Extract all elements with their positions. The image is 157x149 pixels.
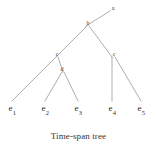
tree-leaf-e2: e2: [41, 104, 48, 116]
leaf-subscript: 2: [46, 109, 49, 116]
tree-node-c-right: c: [113, 51, 116, 57]
tree-node-b: b: [87, 20, 90, 26]
edge-c-right-e5: [115, 57, 141, 101]
tree-edges: [0, 0, 157, 149]
tree-leaf-e3: e3: [74, 104, 81, 116]
tree-leaf-e5: e5: [137, 104, 144, 116]
figure-caption: Time-span tree: [0, 131, 157, 141]
edge-c-left-e1: [12, 57, 56, 101]
edge-b-a: [86, 11, 110, 26]
leaf-subscript: 1: [13, 109, 16, 116]
edge-d-e2: [45, 72, 62, 101]
edge-d-e3: [64, 72, 78, 101]
leaf-subscript: 4: [113, 109, 116, 116]
leaf-subscript: 5: [142, 109, 145, 116]
tree-node-d: d: [61, 66, 64, 72]
edge-b-c-right: [89, 26, 112, 57]
tree-leaf-e1: e1: [8, 104, 15, 116]
tree-node-a: a: [112, 5, 115, 11]
time-span-tree-figure: a b c c d e1 e2 e3 e4 e5 Time-span tree: [0, 0, 157, 149]
tree-node-c-left: c: [56, 51, 59, 57]
tree-leaf-e4: e4: [108, 104, 115, 116]
edge-b-c-left: [56, 26, 87, 57]
leaf-subscript: 3: [79, 109, 82, 116]
